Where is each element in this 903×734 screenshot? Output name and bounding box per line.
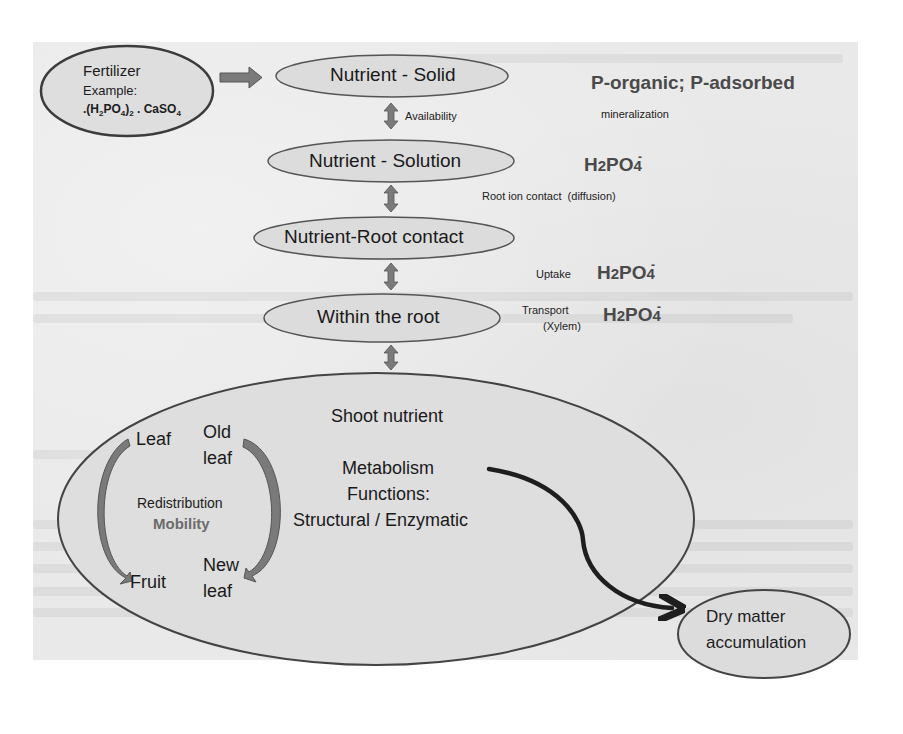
formula-part: .(H: [83, 102, 99, 116]
ion-charge: -: [651, 258, 655, 272]
ion-formula-uptake: H2PO4-: [597, 259, 655, 282]
ion-charge: -: [638, 150, 642, 164]
nutrient-solid-label: Nutrient - Solid: [330, 65, 456, 84]
double-arrow-icon: [384, 263, 398, 290]
dry-matter-label-line1: Dry matter: [706, 608, 785, 625]
nutrient-solution-label: Nutrient - Solution: [309, 151, 461, 170]
p-forms-note: P-organic; P-adsorbed: [591, 73, 795, 92]
ion-part: 2: [611, 265, 619, 282]
mineralization-label: mineralization: [601, 109, 669, 120]
functions-label: Functions:: [347, 485, 430, 503]
ion-part: PO: [619, 262, 646, 283]
double-arrow-icon: [384, 185, 398, 212]
new-label: New: [203, 556, 239, 574]
double-arrow-icon: [384, 345, 398, 370]
fertilizer-example-label: Example:: [83, 84, 137, 97]
structural-enzymatic-label: Structural / Enzymatic: [293, 511, 468, 529]
metabolism-label: Metabolism: [342, 459, 434, 477]
ion-formula-solution: H2PO4-: [584, 151, 642, 174]
redistribution-label: Redistribution: [137, 496, 223, 510]
ion-part: PO: [606, 154, 633, 175]
shoot-nutrient-title: Shoot nutrient: [331, 407, 443, 425]
xylem-label: (Xylem): [543, 321, 581, 332]
ion-part: PO: [625, 304, 652, 325]
ion-part: H: [584, 154, 598, 175]
uptake-label: Uptake: [536, 269, 571, 280]
ion-formula-transport: H2PO4-: [603, 301, 661, 324]
new-leaf-label: leaf: [203, 582, 232, 600]
ion-charge: -: [657, 300, 661, 314]
mobility-label: Mobility: [153, 516, 210, 531]
ion-part: 2: [598, 157, 606, 174]
ion-part: 2: [617, 307, 625, 324]
formula-part: . CaSO: [134, 102, 177, 116]
formula-subscript: 4: [176, 109, 180, 118]
ion-part: H: [597, 262, 611, 283]
dry-matter-label-line2: accumulation: [706, 634, 806, 651]
transport-label: Transport: [522, 305, 569, 316]
formula-part: PO: [103, 102, 120, 116]
double-arrow-icon: [384, 103, 398, 129]
root-ion-contact-label: Root ion contact (diffusion): [482, 191, 616, 202]
fertilizer-formula: .(H2PO4)2 . CaSO4: [83, 103, 181, 118]
fertilizer-arrow-icon: [220, 67, 262, 88]
availability-label: Availability: [405, 111, 457, 122]
old-label: Old: [203, 423, 231, 441]
within-root-label: Within the root: [317, 307, 440, 326]
old-leaf-label: leaf: [203, 449, 232, 467]
fruit-label: Fruit: [130, 573, 166, 591]
ion-part: H: [603, 304, 617, 325]
fertilizer-title: Fertilizer: [83, 63, 141, 78]
leaf-label: Leaf: [136, 430, 171, 448]
nutrient-root-contact-label: Nutrient-Root contact: [284, 227, 464, 246]
